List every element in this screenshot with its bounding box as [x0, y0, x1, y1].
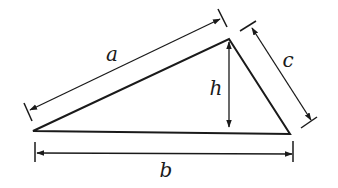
dimension-a-tick-start	[24, 103, 32, 121]
dimension-c-tick-end	[301, 117, 317, 128]
label-h: h	[210, 78, 223, 98]
label-c: c	[282, 50, 293, 70]
dimension-a-tick-end	[218, 9, 227, 27]
dimension-a	[24, 9, 227, 121]
label-a: a	[106, 44, 118, 64]
triangle-shape	[33, 39, 290, 134]
label-b: b	[160, 160, 173, 180]
